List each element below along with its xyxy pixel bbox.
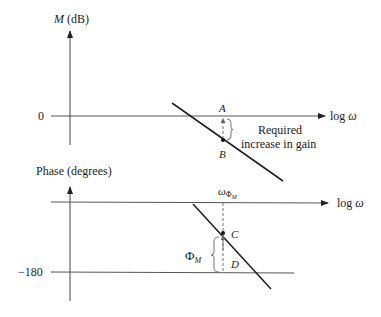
- phase-neg180-line: [51, 272, 294, 273]
- omega-var: ω: [348, 109, 356, 123]
- point-c-label: C: [231, 228, 239, 240]
- gain-brace: [227, 119, 233, 140]
- log-prefix: log: [337, 196, 355, 210]
- magnitude-plot: M (dB) 0 log ω A B Required increase in …: [38, 12, 357, 181]
- magnitude-y-label: M (dB): [53, 12, 89, 26]
- phase-margin-frequency-label: ωΦM: [218, 185, 238, 200]
- phi-symbol: Φ: [185, 248, 195, 263]
- magnitude-unit: (dB): [64, 12, 89, 26]
- point-c-marker: [221, 231, 225, 235]
- magnitude-zero-tick: 0: [38, 109, 44, 123]
- point-b-marker: [221, 138, 225, 142]
- bode-diagram: M (dB) 0 log ω A B Required increase in …: [0, 0, 381, 317]
- phase-curve: [193, 204, 271, 289]
- phi-sub: M: [194, 256, 203, 265]
- point-a-label: A: [218, 102, 226, 114]
- phase-margin-brace: [211, 237, 219, 272]
- point-d-label: D: [230, 258, 239, 270]
- omega-var: ω: [355, 196, 363, 210]
- gain-annotation-line1: Required: [258, 123, 302, 137]
- phase-y-label: Phase (degrees): [36, 164, 112, 178]
- log-prefix: log: [330, 109, 348, 123]
- gain-annotation-line2: increase in gain: [241, 137, 316, 151]
- freq-subsub: M: [231, 194, 238, 200]
- phase-margin-label: ΦM: [185, 248, 203, 265]
- point-b-label: B: [219, 148, 226, 160]
- phase-plot: Phase (degrees) log ω −180 ωΦM C D ΦM: [18, 164, 364, 301]
- phase-upper-axis: [51, 202, 328, 203]
- phase-x-label: log ω: [337, 196, 364, 210]
- phase-neg180-tick: −180: [18, 265, 43, 279]
- magnitude-x-label: log ω: [330, 109, 357, 123]
